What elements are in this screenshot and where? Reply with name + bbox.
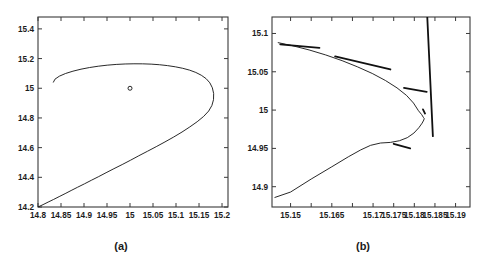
data-curve <box>397 0 433 136</box>
x-tick-label: 15.165 <box>319 211 344 220</box>
y-tick-label: 14.95 <box>248 144 269 153</box>
x-tick-label: 15.1 <box>168 211 184 220</box>
y-tick-label: 15 <box>25 84 35 93</box>
y-tick-label: 15.4 <box>18 25 34 34</box>
x-tick-label: 14.85 <box>51 211 72 220</box>
equilibrium-marker <box>128 86 132 90</box>
panel-a-caption: (a) <box>0 240 242 252</box>
y-tick-label: 15.05 <box>248 68 269 77</box>
x-tick-label: 15.05 <box>143 211 164 220</box>
data-curve <box>394 144 411 149</box>
y-tick-label: 15 <box>259 106 269 115</box>
plot-frame <box>38 17 228 207</box>
x-tick-label: 15.2 <box>214 211 230 220</box>
x-tick-label: 15.175 <box>381 211 406 220</box>
x-tick-label: 14.9 <box>76 211 92 220</box>
chart-svg-b: 15.1515.16515.1715.17515.1815.18515.1914… <box>242 0 484 257</box>
x-tick-label: 14.8 <box>30 211 46 220</box>
chart-svg-a: 14.814.8514.914.951515.0515.115.1515.214… <box>0 0 242 257</box>
y-tick-label: 14.9 <box>252 183 268 192</box>
y-tick-label: 15.1 <box>252 29 268 38</box>
panel-b-caption: (b) <box>242 240 484 252</box>
y-tick-label: 14.2 <box>18 203 34 212</box>
y-tick-label: 14.4 <box>18 173 34 182</box>
x-tick-label: 15 <box>125 211 135 220</box>
figure-container: 14.814.8514.914.951515.0515.115.1515.214… <box>0 0 484 257</box>
data-curve <box>335 56 390 69</box>
data-curve <box>404 88 427 92</box>
data-curve <box>38 64 214 207</box>
x-tick-label: 15.15 <box>189 211 210 220</box>
y-tick-label: 15.2 <box>18 55 34 64</box>
y-tick-label: 14.8 <box>18 114 34 123</box>
chart-panel-a: 14.814.8514.914.951515.0515.115.1515.214… <box>0 0 242 257</box>
data-curve <box>275 43 424 198</box>
x-tick-label: 15.185 <box>422 211 447 220</box>
y-tick-label: 14.6 <box>18 144 34 153</box>
x-tick-label: 15.15 <box>280 211 301 220</box>
data-curve <box>423 109 425 113</box>
chart-panel-b: 15.1515.16515.1715.17515.1815.18515.1914… <box>242 0 484 257</box>
x-tick-label: 14.95 <box>97 211 118 220</box>
x-tick-label: 15.19 <box>445 211 466 220</box>
